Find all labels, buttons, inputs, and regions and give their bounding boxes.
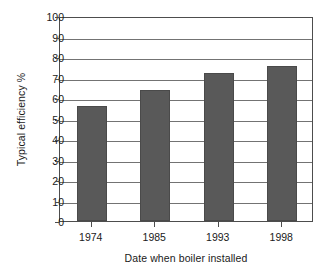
bar-chart: Typical efficiency % 1009080706050403020… <box>0 0 330 276</box>
x-tick-label-1998: 1998 <box>251 231 311 243</box>
x-tick-mark <box>91 222 92 227</box>
y-tick-label: 70 <box>24 74 64 84</box>
bar-1985 <box>140 90 170 221</box>
y-tick-label: 80 <box>24 53 64 63</box>
y-axis-title: Typical efficiency % <box>14 17 28 222</box>
bar-1993 <box>204 73 234 221</box>
plot-area <box>59 17 313 222</box>
x-tick-mark <box>281 222 282 227</box>
y-tick-label: 90 <box>24 33 64 43</box>
y-tick-mark <box>55 222 60 223</box>
y-tick-label: 50 <box>24 115 64 125</box>
y-tick-label: 20 <box>24 176 64 186</box>
x-tick-label-1974: 1974 <box>61 231 121 243</box>
y-tick-label: 30 <box>24 156 64 166</box>
y-tick-label: 10 <box>24 197 64 207</box>
x-tick-label-1985: 1985 <box>124 231 184 243</box>
x-tick-mark <box>154 222 155 227</box>
x-tick-mark <box>218 222 219 227</box>
y-tick-label: 60 <box>24 94 64 104</box>
y-tick-label: 100 <box>24 12 64 22</box>
y-tick-label: 40 <box>24 135 64 145</box>
bar-1998 <box>267 66 297 221</box>
bar-1974 <box>77 106 107 221</box>
x-tick-label-1993: 1993 <box>188 231 248 243</box>
y-tick-label: 0 <box>24 217 64 227</box>
bar-series <box>60 18 312 221</box>
x-axis-title: Date when boiler installed <box>59 252 313 264</box>
